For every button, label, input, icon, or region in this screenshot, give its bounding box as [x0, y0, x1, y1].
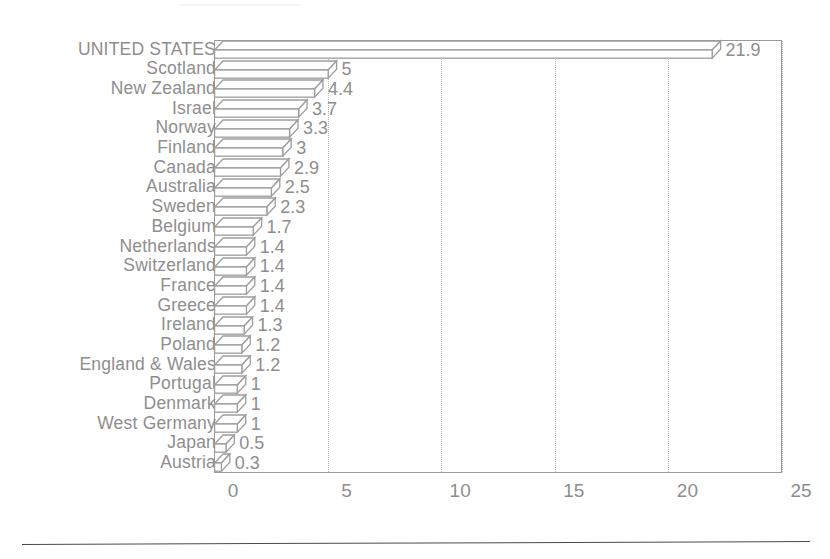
value-label: 3 — [294, 139, 306, 157]
category-label: England & Wales — [79, 356, 216, 374]
bar-row: Norway3.3 — [0, 119, 830, 138]
bar-row: Poland1.2 — [0, 335, 830, 354]
x-tick-label-5: 5 — [341, 481, 352, 500]
category-label: Poland — [160, 336, 216, 354]
category-label: Norway — [155, 120, 216, 138]
bar-3d-shape — [214, 276, 258, 298]
bar — [214, 355, 252, 374]
bar-row: Israel3.7 — [0, 99, 830, 118]
category-label: Canada — [153, 159, 216, 177]
bar-3d-shape — [214, 60, 340, 82]
bar-row: Greece1.4 — [0, 296, 830, 315]
bar-3d-shape — [214, 237, 258, 259]
bar-3d-shape — [214, 355, 253, 377]
bar-3d-shape — [214, 316, 256, 338]
category-label: Scotland — [146, 61, 216, 79]
value-label: 1.3 — [256, 316, 283, 334]
bar-row: UNITED STATES21.9 — [0, 40, 830, 59]
bar-3d-shape — [214, 394, 249, 416]
bar — [214, 40, 723, 59]
value-label: 1 — [249, 375, 261, 393]
bar-3d-shape — [214, 434, 237, 456]
bar-row: Australia2.5 — [0, 178, 830, 197]
bar — [214, 79, 325, 98]
value-label: 0.3 — [233, 454, 260, 472]
bar-3d-shape — [214, 257, 258, 279]
bar — [214, 316, 255, 335]
x-tick-label-20: 20 — [677, 481, 698, 500]
category-label: Austria — [160, 454, 216, 472]
bar-3d-shape — [214, 119, 301, 141]
category-label: Ireland — [161, 317, 216, 335]
value-label: 1.4 — [258, 297, 285, 315]
bar-rows: UNITED STATES21.9Scotland5New Zealand4.4… — [0, 40, 830, 473]
bar-3d-shape — [214, 138, 294, 160]
bar-chart: UNITED STATES21.9Scotland5New Zealand4.4… — [0, 0, 830, 559]
bar-3d-shape — [214, 375, 249, 397]
scan-artifact — [180, 4, 300, 6]
category-label: UNITED STATES — [78, 41, 216, 59]
value-label: 1.4 — [258, 238, 285, 256]
category-label: France — [160, 277, 216, 295]
bar — [214, 335, 252, 354]
bar-row: Finland3 — [0, 138, 830, 157]
bar-row: Ireland1.3 — [0, 316, 830, 335]
value-label: 4.4 — [326, 80, 353, 98]
category-label: Australia — [146, 179, 216, 197]
category-label: Netherlands — [119, 238, 216, 256]
bar — [214, 375, 248, 394]
value-label: 1.7 — [265, 218, 292, 236]
bar — [214, 257, 257, 276]
bar-3d-shape — [214, 217, 265, 239]
bar-row: Sweden2.3 — [0, 197, 830, 216]
value-label: 1.2 — [253, 336, 280, 354]
category-label: Finland — [157, 139, 216, 157]
bar-row: West Germany1 — [0, 414, 830, 433]
category-label: Israel — [172, 100, 216, 118]
bar-row: England & Wales1.2 — [0, 355, 830, 374]
category-label: Belgium — [151, 218, 216, 236]
bar — [214, 453, 232, 472]
bar — [214, 394, 248, 413]
category-label: New Zealand — [111, 80, 216, 98]
bar-row: Japan0.5 — [0, 434, 830, 453]
x-tick-label-10: 10 — [450, 481, 471, 500]
bar-row: Scotland5 — [0, 60, 830, 79]
bar-3d-shape — [214, 335, 253, 357]
bar-row: Belgium1.7 — [0, 217, 830, 236]
value-label: 1.2 — [253, 356, 280, 374]
value-label: 2.5 — [283, 178, 310, 196]
bar — [214, 119, 300, 138]
value-label: 1 — [249, 415, 261, 433]
bar-row: Portugal1 — [0, 375, 830, 394]
bar-row: Canada2.9 — [0, 158, 830, 177]
value-label: 5 — [340, 60, 352, 78]
x-tick-label-15: 15 — [563, 481, 584, 500]
bar — [214, 217, 264, 236]
bar — [214, 197, 277, 216]
x-tick-label-0: 0 — [228, 481, 239, 500]
bar-row: Austria0.3 — [0, 453, 830, 472]
bar-row: New Zealand4.4 — [0, 79, 830, 98]
footer-rule — [22, 541, 810, 545]
category-label: West Germany — [97, 415, 216, 433]
value-label: 1.4 — [258, 277, 285, 295]
bar — [214, 60, 339, 79]
category-label: Sweden — [152, 198, 216, 216]
bar-3d-shape — [214, 296, 258, 318]
bar — [214, 414, 248, 433]
bar-row: Switzerland1.4 — [0, 257, 830, 276]
bar-3d-shape — [214, 178, 283, 200]
value-label: 21.9 — [724, 41, 761, 59]
category-label: Greece — [157, 297, 216, 315]
bar — [214, 99, 309, 118]
bar — [214, 158, 291, 177]
bar-3d-shape — [214, 158, 292, 180]
value-label: 3.3 — [301, 119, 328, 137]
value-label: 2.9 — [292, 159, 319, 177]
bar — [214, 138, 293, 157]
bar-row: Netherlands1.4 — [0, 237, 830, 256]
category-label: Portugal — [149, 376, 216, 394]
bar — [214, 296, 257, 315]
bar-row: France1.4 — [0, 276, 830, 295]
